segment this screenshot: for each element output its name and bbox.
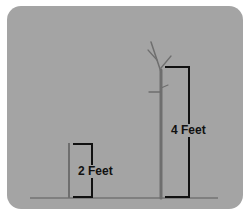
label-4-feet: 4 Feet — [170, 124, 207, 137]
diagram-drawing — [0, 0, 248, 213]
sapling-tree — [148, 42, 171, 198]
label-2-feet: 2 Feet — [77, 165, 114, 178]
